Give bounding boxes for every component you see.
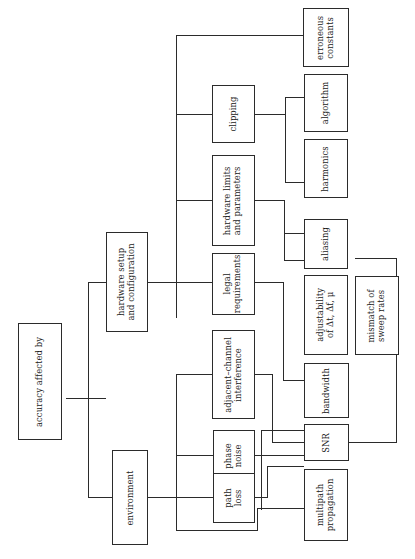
edge-hwl-adjust — [284, 260, 304, 261]
edge-multipath-snr — [261, 430, 304, 431]
edge-trunk-legal — [176, 282, 213, 283]
node-aliasing[interactable]: aliasing — [304, 219, 348, 269]
node-erroneous-constants[interactable]: erroneous constants — [303, 8, 349, 67]
edge-legal-trunk — [283, 282, 284, 381]
edge-env-multipath-2 — [257, 508, 258, 531]
edge-snr-stub — [349, 442, 397, 443]
edge-hwlimits-trunk — [284, 200, 285, 261]
node-clipping[interactable]: clipping — [212, 85, 255, 143]
edge-phase-snr — [255, 455, 304, 456]
node-algorithm[interactable]: algorithm — [304, 74, 348, 132]
node-adjacent-channel-interference[interactable]: adjacent–channel interference — [212, 330, 255, 419]
node-harmonics[interactable]: harmonics — [304, 139, 348, 198]
node-label: path loss — [224, 488, 244, 508]
node-label: adjustability of Δt, Δf, μ — [316, 288, 336, 342]
node-multipath-propagation[interactable]: multipath propagation — [304, 469, 348, 541]
node-label: legal requirements — [224, 255, 244, 314]
node-hardware-setup-and-configuration[interactable]: hardware setup and configuration — [106, 232, 148, 332]
edge-trunk-clipping — [176, 114, 213, 115]
edge-clipping-trunk — [285, 97, 286, 183]
edge-env-trunk — [176, 374, 177, 498]
edge-adjacent-down — [272, 374, 273, 443]
edge-adjacent-snr — [272, 442, 304, 443]
node-environment[interactable]: environment — [112, 450, 148, 545]
node-hardware-limits-and-parameters[interactable]: hardware limits and parameters — [212, 155, 255, 246]
edge-multipath-up — [261, 430, 262, 510]
node-label: environment — [125, 470, 135, 525]
node-mismatch-of-sweep-rates[interactable]: mismatch of sweep rates — [355, 276, 399, 355]
edge-adjacent-stub — [255, 374, 273, 375]
edge-hwlimits-stub — [255, 200, 285, 201]
node-label: aliasing — [321, 227, 331, 261]
edge-snr-mismatch-h — [355, 258, 397, 259]
edge-clip-harmonics — [285, 182, 304, 183]
node-label: mismatch of sweep rates — [367, 289, 387, 342]
node-label: algorithm — [321, 82, 331, 124]
edge-env-trunk-dn — [176, 497, 177, 531]
node-path-loss[interactable]: path loss — [213, 473, 255, 523]
node-label: phase noise — [224, 443, 244, 469]
edge-trunk-hwlimits — [176, 200, 213, 201]
edge-trunk-hwsetup — [88, 282, 107, 283]
edge-env-adjacent — [176, 374, 213, 375]
edge-trunk-environment — [88, 497, 112, 498]
edge-level1-trunk — [88, 282, 89, 399]
edge-trunk-errconst — [176, 35, 304, 36]
edge-legal-stub — [255, 282, 284, 283]
edge-pathloss-snr — [267, 466, 304, 467]
edge-env-pathloss — [176, 497, 213, 498]
edge-legal-bandwidth — [283, 380, 304, 381]
node-label: accuracy affected by — [35, 336, 45, 426]
diagram-canvas: accuracy affected by hardware setup and … — [0, 0, 415, 559]
node-legal-requirements[interactable]: legal requirements — [212, 253, 255, 315]
edge-root-stub — [66, 398, 106, 399]
node-label: bandwidth — [322, 368, 332, 414]
edge-env-phasenoise — [176, 455, 213, 456]
node-bandwidth[interactable]: bandwidth — [304, 363, 349, 418]
edge-clip-algorithm — [285, 97, 304, 98]
node-label: clipping — [229, 96, 239, 131]
node-label: adjacent–channel interference — [224, 337, 244, 413]
edge-clipping-stub — [255, 114, 286, 115]
edge-hwl-aliasing — [284, 233, 304, 234]
node-adjustability[interactable]: adjustability of Δt, Δf, μ — [304, 275, 348, 355]
node-label: SNR — [322, 433, 332, 453]
node-label: harmonics — [321, 146, 331, 191]
node-label: hardware setup and configuration — [117, 243, 137, 320]
edge-env-stub — [148, 497, 177, 498]
edge-env-multipath-3 — [257, 508, 304, 509]
edge-env-multipath-1 — [176, 530, 258, 531]
edge-pathloss-up — [267, 466, 268, 498]
edge-level1-trunk-dn — [88, 398, 89, 498]
node-accuracy-affected-by[interactable]: accuracy affected by — [18, 323, 62, 440]
node-label: hardware limits and parameters — [224, 166, 244, 235]
node-label: multipath propagation — [316, 479, 336, 532]
node-snr[interactable]: SNR — [304, 424, 349, 461]
edge-hwsetup-trunk — [176, 35, 177, 318]
node-label: erroneous constants — [316, 16, 336, 60]
edge-hwsetup-stub — [148, 282, 177, 283]
